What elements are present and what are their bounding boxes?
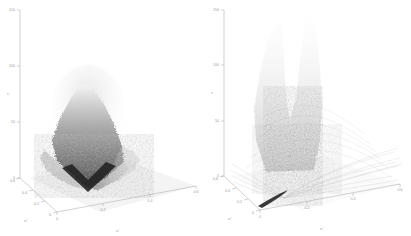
z-ticklabel-150-right: 150	[213, 8, 219, 12]
y-axis-label-right: uy	[228, 216, 232, 221]
y-ticklabel-06-left: 0.6	[10, 179, 15, 183]
y-tick-04-left	[29, 190, 33, 191]
y-tick-0-right	[256, 210, 260, 211]
y-tick-02-right	[244, 199, 248, 200]
y-tick-02-left	[41, 201, 45, 202]
z-ticklabel-100-right: 100	[213, 63, 219, 67]
z-ticklabel-150-left: 150	[9, 8, 15, 12]
x-ticklabel-0-right: 0	[259, 215, 261, 219]
y-ticklabel-04-left: 0.4	[22, 191, 27, 195]
figure-canvas: 150 100 50 0 v 0 0.2 0.4 0.6 ux 0	[0, 0, 411, 236]
x-ticklabel-06-right: 0.6	[398, 188, 403, 192]
y-ticklabel-04-right: 0.4	[225, 189, 230, 193]
y-axis-label-left: uy	[24, 218, 28, 223]
z-axis-label-right: v	[211, 90, 213, 95]
y-ticklabel-0-right: 0	[252, 211, 254, 215]
y-ticklabel-02-right: 0.2	[237, 200, 242, 204]
y-ticklabel-02-left: 0.2	[34, 202, 39, 206]
mesh-core-speckle2-right	[260, 130, 334, 188]
y-tick-04-right	[232, 188, 236, 189]
y-ticklabel-06-right: 0.6	[213, 177, 218, 181]
z-ticklabel-100-left: 100	[9, 64, 15, 68]
x-ticklabel-02-left: 0.2	[101, 208, 106, 212]
x-ticklabel-06-left: 0.6	[194, 190, 199, 194]
right-plot-panel: 150 100 50 0 v 0 0.2 0.4 0.6 ux 0	[206, 0, 411, 236]
x-ticklabel-04-right: 0.4	[351, 197, 356, 201]
x-axis-label-right: ux	[320, 226, 324, 231]
x-ticklabel-02-right: 0.2	[305, 206, 310, 210]
left-plot-panel: 150 100 50 0 v 0 0.2 0.4 0.6 ux 0	[0, 0, 205, 236]
y-tick-0-left	[53, 212, 57, 213]
x-axis-label-left: ux	[116, 228, 120, 233]
x-ticklabel-04-left: 0.4	[148, 199, 153, 203]
y-ticklabel-0-left: 0	[49, 213, 51, 217]
z-ticklabel-50-right: 50	[215, 119, 219, 123]
z-axis-label-left: v	[7, 91, 9, 96]
x-ticklabel-0-left: 0	[56, 217, 58, 221]
z-ticklabel-50-left: 50	[11, 120, 15, 124]
